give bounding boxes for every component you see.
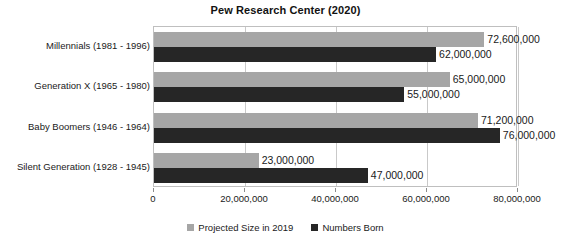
x-tick-label: 20,000,000 [220, 193, 268, 204]
bar-value-label: 55,000,000 [407, 87, 460, 102]
category-label: Silent Generation (1928 - 1945) [4, 161, 150, 173]
bar-group: 72,600,00062,000,000 [154, 32, 516, 62]
x-tick-label: 0 [150, 193, 155, 204]
bar-group: 23,000,00047,000,000 [154, 153, 516, 183]
chart-title: Pew Research Center (2020) [0, 4, 571, 16]
bar-projected[interactable] [154, 153, 259, 168]
plot-area: 72,600,00062,000,00065,000,00055,000,000… [153, 26, 517, 187]
bar-value-label: 62,000,000 [439, 47, 492, 62]
x-tick-label: 80,000,000 [493, 193, 541, 204]
bar-value-label: 23,000,000 [262, 153, 315, 168]
x-tick-mark [426, 188, 427, 192]
legend-swatch-icon [311, 224, 318, 231]
bar-projected[interactable] [154, 72, 450, 87]
bar-projected[interactable] [154, 32, 484, 47]
bar-value-label: 72,600,000 [487, 32, 540, 47]
bar-value-label: 71,200,000 [481, 113, 534, 128]
x-tick-mark [517, 188, 518, 192]
legend-swatch-icon [187, 224, 194, 231]
legend-label: Projected Size in 2019 [198, 222, 293, 233]
legend-item[interactable]: Projected Size in 2019 [187, 222, 293, 233]
category-label: Millennials (1981 - 1996) [4, 40, 150, 52]
gridline [518, 27, 519, 186]
bar-born[interactable] [154, 168, 368, 183]
bar-projected[interactable] [154, 113, 478, 128]
bar-born[interactable] [154, 128, 500, 143]
bar-group: 65,000,00055,000,000 [154, 72, 516, 102]
legend-label: Numbers Born [322, 222, 383, 233]
x-axis: 020,000,00040,000,00060,000,00080,000,00… [153, 188, 517, 204]
chart-legend: Projected Size in 2019Numbers Born [0, 222, 571, 233]
category-label: Generation X (1965 - 1980) [4, 80, 150, 92]
bar-value-label: 65,000,000 [453, 72, 506, 87]
bar-value-label: 76,000,000 [503, 128, 556, 143]
bar-born[interactable] [154, 87, 404, 102]
bar-value-label: 47,000,000 [371, 168, 424, 183]
x-tick-mark [153, 188, 154, 192]
bar-group: 71,200,00076,000,000 [154, 113, 516, 143]
x-tick-mark [335, 188, 336, 192]
legend-item[interactable]: Numbers Born [311, 222, 383, 233]
bar-born[interactable] [154, 47, 436, 62]
x-tick-mark [244, 188, 245, 192]
category-axis-labels: Millennials (1981 - 1996)Generation X (1… [0, 26, 150, 187]
category-label: Baby Boomers (1946 - 1964) [4, 121, 150, 133]
x-tick-label: 60,000,000 [402, 193, 450, 204]
x-tick-label: 40,000,000 [311, 193, 359, 204]
bar-chart: Pew Research Center (2020) Millennials (… [0, 0, 571, 250]
